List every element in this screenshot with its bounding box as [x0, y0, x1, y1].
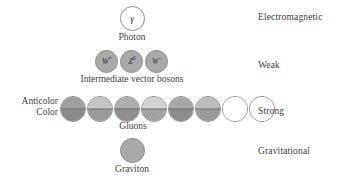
z-zero-boson-symbol: Z0	[128, 58, 135, 66]
graviton-caption: Graviton	[115, 164, 149, 174]
gluon-color-half	[88, 109, 112, 121]
force-label-weak: Weak	[258, 60, 280, 70]
gluon-group	[60, 96, 275, 122]
gluon-particle	[195, 96, 221, 122]
force-row-weak: W+ Z0 W− Intermediate vector bosons Weak	[0, 50, 352, 92]
force-row-strong: Anticolor Color Gluons Strong	[0, 94, 352, 134]
colorless-gluon-particle	[222, 96, 248, 122]
gluon-color-half	[142, 109, 166, 121]
gluon-divider-line	[196, 109, 220, 110]
gluon-anticolor-half	[88, 97, 112, 109]
w-minus-boson-particle: W−	[145, 50, 168, 73]
graviton-particle	[120, 138, 145, 163]
gluon-particle	[114, 96, 140, 122]
gluon-color-half	[196, 109, 220, 121]
gluon-color-half	[61, 109, 85, 121]
gluons-caption-wrap: Gluons	[0, 121, 352, 131]
force-label-strong: Strong	[258, 106, 284, 116]
gluon-divider-line	[88, 109, 112, 110]
gluon-color-half	[115, 109, 139, 121]
w-plus-boson-symbol: W+	[102, 58, 112, 66]
gluon-anticolor-half	[61, 97, 85, 109]
fundamental-forces-diagram: γ Photon Electromagnetic W+ Z0 W−	[0, 0, 352, 185]
gluon-anticolor-half	[142, 97, 166, 109]
boson-caption: Intermediate vector bosons	[81, 74, 184, 84]
gluon-color-half	[169, 109, 193, 121]
force-row-electromagnetic: γ Photon Electromagnetic	[0, 6, 352, 48]
gluons-caption: Gluons	[119, 121, 146, 131]
boson-group: W+ Z0 W− Intermediate vector bosons	[0, 50, 352, 84]
gluon-particle	[87, 96, 113, 122]
graviton-group: Graviton	[0, 138, 352, 174]
gluon-divider-line	[115, 109, 139, 110]
gluon-color-half	[223, 109, 247, 121]
force-row-gravitational: Graviton Gravitational	[0, 138, 352, 182]
gluon-divider-line	[142, 109, 166, 110]
gluon-side-labels: Anticolor Color	[6, 96, 58, 118]
gluon-particle	[168, 96, 194, 122]
photon-particle: γ	[120, 6, 145, 31]
gluon-particle	[60, 96, 86, 122]
photon-symbol: γ	[130, 14, 134, 24]
gluon-divider-line	[169, 109, 193, 110]
anticolor-label: Anticolor	[6, 96, 58, 107]
w-plus-boson-particle: W+	[95, 50, 118, 73]
z-zero-boson-particle: Z0	[120, 50, 143, 73]
photon-caption: Photon	[119, 32, 146, 42]
gluon-anticolor-half	[169, 97, 193, 109]
gluon-particle	[141, 96, 167, 122]
color-label: Color	[6, 107, 58, 118]
gluon-anticolor-half	[115, 97, 139, 109]
gluon-anticolor-half	[223, 97, 247, 109]
gluon-anticolor-half	[196, 97, 220, 109]
gluon-divider-line	[61, 109, 85, 110]
force-label-gravitational: Gravitational	[258, 146, 310, 156]
force-label-electromagnetic: Electromagnetic	[258, 12, 323, 22]
w-minus-boson-symbol: W−	[152, 58, 162, 66]
